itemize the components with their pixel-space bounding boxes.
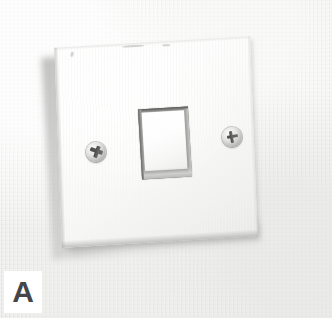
rocker-switch-paddle[interactable]	[141, 110, 187, 171]
panel-label-letter: A	[12, 277, 34, 307]
panel-label-box: A	[4, 271, 42, 313]
figure-panel: A	[0, 0, 332, 318]
rocker-switch[interactable]	[138, 107, 192, 180]
